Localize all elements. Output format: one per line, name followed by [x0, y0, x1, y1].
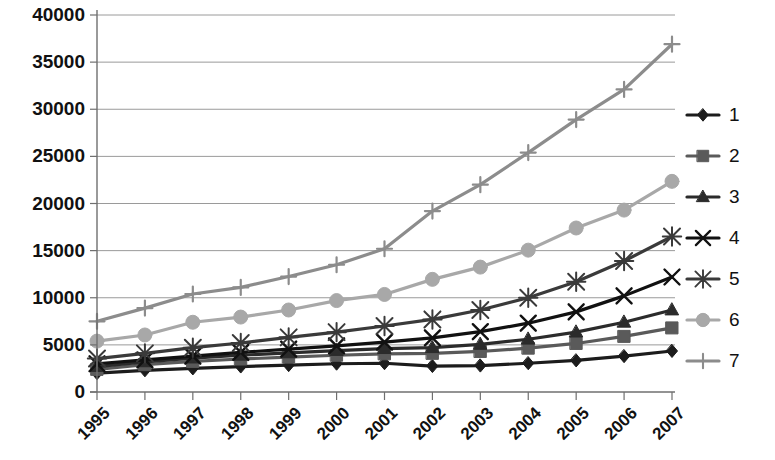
- x-tick-label-1995: 1995: [74, 403, 114, 443]
- marker-circle: [473, 260, 487, 274]
- y-tick-label-0: 0: [74, 381, 85, 402]
- x-tick-label-2005: 2005: [553, 403, 593, 443]
- marker-star: [327, 323, 345, 341]
- legend-item-3[interactable]: 3: [687, 186, 740, 207]
- marker-square: [570, 337, 582, 349]
- x-tick-label-1998: 1998: [217, 403, 257, 443]
- marker-star: [663, 227, 681, 245]
- marker-circle: [186, 315, 200, 329]
- marker-circle: [521, 243, 535, 257]
- legend-item-1[interactable]: 1: [687, 104, 740, 125]
- legend-item-2[interactable]: 2: [687, 145, 740, 166]
- marker-diamond: [475, 359, 486, 372]
- marker-circle: [665, 174, 679, 188]
- marker-diamond: [698, 109, 708, 121]
- marker-diamond: [427, 360, 438, 373]
- x-tick-label-2003: 2003: [457, 403, 497, 443]
- x-tick-label-2007: 2007: [649, 403, 689, 443]
- legend-item-6[interactable]: 6: [687, 309, 740, 330]
- marker-circle: [473, 260, 487, 274]
- marker-circle: [521, 243, 535, 257]
- y-tick-label-15000: 15000: [32, 240, 85, 261]
- marker-circle: [378, 287, 392, 301]
- marker-plus: [233, 280, 248, 295]
- x-tick-label-1999: 1999: [265, 403, 305, 443]
- marker-star: [423, 310, 441, 328]
- marker-plus: [281, 269, 296, 284]
- legend-item-4[interactable]: 4: [687, 227, 740, 248]
- y-tick-label-10000: 10000: [32, 287, 85, 308]
- marker-diamond: [666, 345, 677, 358]
- marker-star: [694, 270, 711, 287]
- marker-circle: [569, 221, 583, 235]
- marker-star: [327, 323, 345, 341]
- marker-star: [375, 317, 393, 335]
- legend: 1234567: [687, 104, 740, 371]
- marker-star: [694, 270, 711, 287]
- y-tick-label-5000: 5000: [43, 334, 85, 355]
- y-tick-label-20000: 20000: [32, 193, 85, 214]
- marker-plus: [233, 280, 248, 295]
- legend-label-2: 2: [729, 145, 740, 166]
- marker-plus: [329, 257, 344, 272]
- marker-diamond: [666, 345, 677, 358]
- legend-label-3: 3: [729, 186, 740, 207]
- marker-star: [615, 252, 633, 270]
- legend-label-7: 7: [729, 350, 740, 371]
- marker-circle: [138, 328, 152, 342]
- marker-star: [519, 289, 537, 307]
- marker-star: [663, 227, 681, 245]
- marker-circle: [234, 310, 248, 324]
- x-tick-label-2000: 2000: [313, 403, 353, 443]
- marker-star: [567, 273, 585, 291]
- marker-star: [136, 344, 154, 362]
- legend-item-5[interactable]: 5: [687, 268, 740, 289]
- series-7: [90, 37, 680, 329]
- marker-triangle: [665, 303, 678, 315]
- y-tick-label-35000: 35000: [32, 51, 85, 72]
- marker-plus: [137, 301, 152, 316]
- marker-diamond: [571, 354, 582, 367]
- marker-diamond: [523, 357, 534, 370]
- marker-star: [519, 289, 537, 307]
- marker-plus: [281, 269, 296, 284]
- y-axis-labels: 0500010000150002000025000300003500040000: [32, 4, 85, 402]
- marker-x: [617, 288, 632, 303]
- x-tick-label-2004: 2004: [505, 403, 546, 444]
- marker-circle: [696, 313, 709, 326]
- series-line-7: [97, 44, 672, 321]
- x-axis-labels: 1995199619971998199920002001200220032004…: [74, 403, 689, 444]
- marker-circle: [138, 328, 152, 342]
- marker-circle: [569, 221, 583, 235]
- marker-star: [136, 344, 154, 362]
- legend-item-7[interactable]: 7: [687, 350, 740, 371]
- legend-label-5: 5: [729, 268, 740, 289]
- marker-star: [184, 339, 202, 357]
- chart-canvas: 0500010000150002000025000300003500040000…: [0, 0, 775, 460]
- marker-square: [697, 150, 708, 161]
- marker-star: [232, 334, 250, 352]
- marker-star: [471, 301, 489, 319]
- marker-star: [471, 301, 489, 319]
- x-tick-label-1996: 1996: [122, 403, 162, 443]
- marker-star: [279, 328, 297, 346]
- marker-circle: [282, 303, 296, 317]
- marker-star: [279, 328, 297, 346]
- marker-plus: [185, 286, 200, 301]
- marker-diamond: [619, 350, 630, 363]
- marker-plus: [696, 354, 710, 368]
- series-group: [88, 37, 681, 380]
- marker-triangle: [665, 303, 678, 315]
- marker-square: [697, 150, 708, 161]
- marker-star: [423, 310, 441, 328]
- marker-star: [615, 252, 633, 270]
- marker-diamond: [619, 350, 630, 363]
- marker-square: [618, 330, 630, 342]
- marker-plus: [185, 286, 200, 301]
- marker-diamond: [698, 109, 708, 121]
- marker-star: [232, 334, 250, 352]
- marker-circle: [425, 272, 439, 286]
- marker-circle: [665, 174, 679, 188]
- marker-circle: [234, 310, 248, 324]
- marker-diamond: [523, 357, 534, 370]
